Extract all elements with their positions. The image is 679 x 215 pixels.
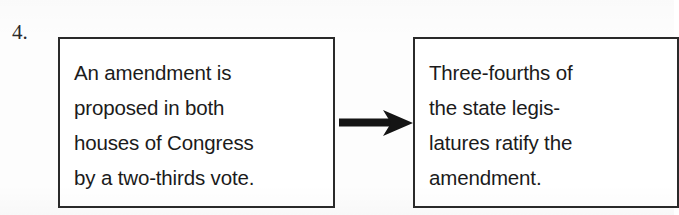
arrow-right-icon [339, 108, 415, 138]
amendment-ratification-box: Three-fourths of the state legis- lature… [413, 37, 679, 208]
item-number: 4. [12, 22, 28, 43]
text-line: amendment. [429, 160, 671, 195]
amendment-proposal-box: An amendment is proposed in both houses … [58, 37, 335, 208]
text-line: proposed in both [74, 90, 327, 125]
text-line: latures ratify the [429, 125, 671, 160]
text-line: Three-fourths of [429, 55, 671, 90]
amendment-proposal-text: An amendment is proposed in both houses … [74, 55, 327, 195]
amendment-ratification-text: Three-fourths of the state legis- lature… [429, 55, 671, 195]
text-line: houses of Congress [74, 125, 327, 160]
text-line: An amendment is [74, 55, 327, 90]
text-line: the state legis- [429, 90, 671, 125]
text-line: by a two-thirds vote. [74, 160, 327, 195]
